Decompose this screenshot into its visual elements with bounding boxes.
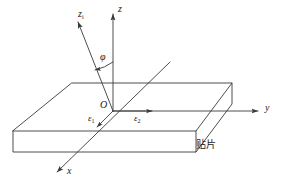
epsilon-2-label: ε2 (134, 114, 141, 123)
epsilon-2-label-subscript: 2 (138, 118, 141, 124)
y-axis-label-text: y (265, 102, 269, 113)
patch-label: 贴片 (196, 140, 216, 150)
epsilon-2-label-text: ε (134, 113, 138, 123)
phi-angle-label-text: φ (100, 51, 106, 62)
zi-axis-label: zi (78, 9, 84, 19)
origin-label: O (100, 100, 107, 110)
figure-canvas: z zi y x O φ ε1 ε2 贴片 (0, 0, 289, 184)
epsilon-1-label-subscript: 1 (92, 118, 95, 124)
epsilon-1-label: ε1 (88, 114, 95, 123)
zi-axis-label-subscript: i (82, 14, 84, 20)
phi-angle-label: φ (100, 52, 106, 62)
y-axis-label: y (265, 103, 269, 113)
z-axis-label: z (118, 4, 122, 14)
label-layer: z zi y x O φ ε1 ε2 贴片 (0, 0, 289, 184)
z-axis-label-text: z (118, 3, 122, 14)
origin-label-text: O (100, 99, 107, 110)
x-axis-label-text: x (67, 165, 71, 176)
epsilon-1-label-text: ε (88, 113, 92, 123)
patch-label-text: 贴片 (196, 139, 216, 150)
x-axis-label: x (67, 166, 71, 176)
